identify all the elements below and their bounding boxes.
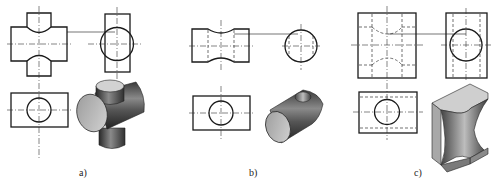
panel-b [189,20,323,146]
panel-a-side-centerlines [88,7,143,79]
panel-c-side-view [446,13,487,78]
panel-a-front-centerlines [7,6,72,160]
panel-b-front-centerlines [189,20,254,71]
panel-c-front-hidden [359,14,415,77]
caption-c: c) [414,167,422,178]
panel-b-side-centerlines [282,24,320,70]
panel-a-isometric [73,80,145,149]
panel-c-top-view [359,92,417,133]
panel-b-isometric [261,90,323,146]
panel-c [351,6,492,172]
caption-a: a) [79,167,87,178]
panel-c-front-centerlines [351,6,424,140]
technical-drawing [0,0,496,189]
panel-c-top-hidden [360,97,416,128]
panel-a [7,6,144,160]
panel-c-isometric [432,84,488,172]
caption-b: b) [249,167,257,178]
panel-b-top-centerlines [189,86,255,140]
panel-c-side-centerlines [441,8,492,82]
panel-c-side-hidden [453,14,480,77]
